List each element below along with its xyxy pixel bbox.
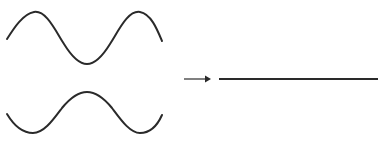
wave-top-path — [7, 12, 162, 64]
arrow-head — [205, 76, 211, 83]
wave-bottom-path — [7, 92, 162, 133]
figure-canvas — [0, 0, 388, 163]
arrow-right-icon — [184, 76, 211, 83]
wave-interference-figure — [0, 0, 388, 163]
